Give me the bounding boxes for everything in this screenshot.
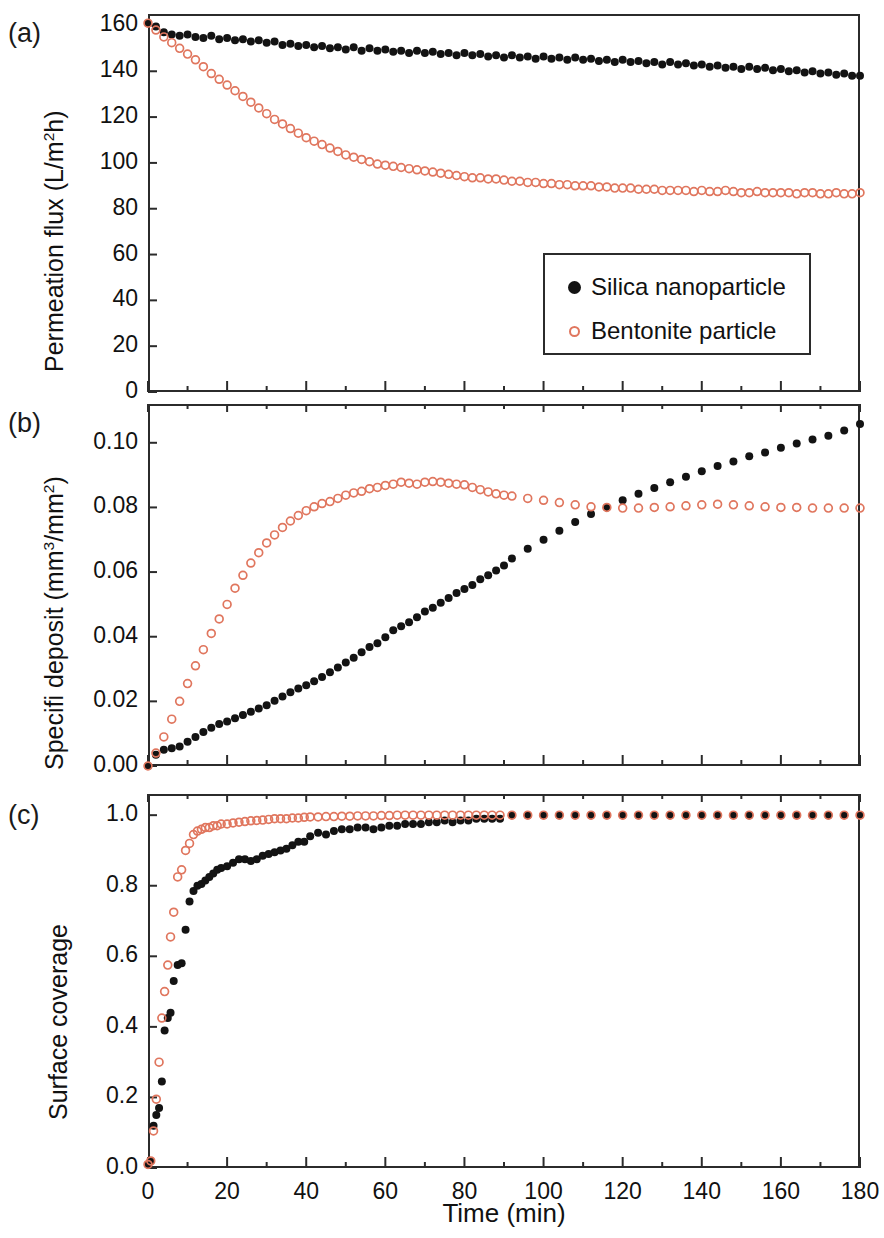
panel-c-ytick-label: 0.4 <box>40 1012 138 1039</box>
panel-c-ytick-label: 0.6 <box>40 941 138 968</box>
panel-c-ytick-label: 0.2 <box>40 1082 138 1109</box>
panel-c-ytick-label: 0.8 <box>40 871 138 898</box>
x-axis-label: Time (min) <box>148 1198 860 1229</box>
panel-c-ytick-label: 1.0 <box>40 800 138 827</box>
panel-c-ytick-label: 0.0 <box>40 1153 138 1180</box>
